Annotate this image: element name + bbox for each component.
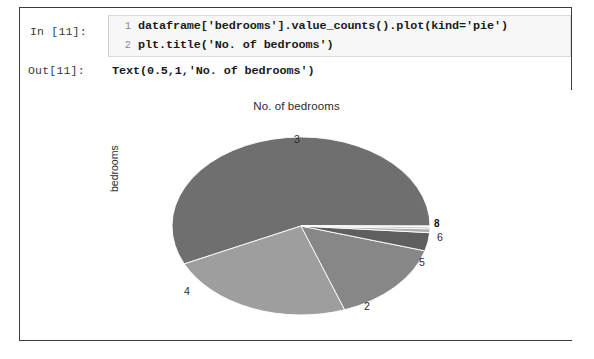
pie-label-8: 8 <box>434 218 440 229</box>
code-line-text: plt.title('No. of bedrooms') <box>138 36 333 55</box>
pie-chart <box>20 90 573 340</box>
notebook-cell-frame: In [11]: 1dataframe['bedrooms'].value_co… <box>19 7 572 341</box>
screenshot-root: In [11]: 1dataframe['bedrooms'].value_co… <box>0 0 594 359</box>
pie-wedge-7 <box>301 226 430 227</box>
pie-label-4: 4 <box>184 285 190 297</box>
output-prompt-label: Out[11]: <box>28 64 85 77</box>
line-number: 2 <box>109 36 131 55</box>
code-line-text: dataframe['bedrooms'].value_counts().plo… <box>138 17 508 36</box>
pie-label-6: 6 <box>437 231 443 243</box>
input-cell: In [11]: 1dataframe['bedrooms'].value_co… <box>20 15 573 57</box>
pie-label-2: 2 <box>364 300 370 312</box>
pie-label-5: 5 <box>419 256 425 268</box>
matplotlib-figure: No. of bedrooms bedrooms 342568 <box>20 90 573 340</box>
code-line[interactable]: 1dataframe['bedrooms'].value_counts().pl… <box>109 17 570 36</box>
code-editor[interactable]: 1dataframe['bedrooms'].value_counts().pl… <box>108 15 571 57</box>
input-prompt-label: In [11]: <box>30 25 108 38</box>
output-text: Text(0.5,1,'No. of bedrooms') <box>112 64 314 78</box>
code-line[interactable]: 2plt.title('No. of bedrooms') <box>109 36 570 55</box>
pie-wedges <box>172 137 430 315</box>
line-number: 1 <box>109 17 131 36</box>
pie-label-3: 3 <box>294 133 300 145</box>
output-row: Out[11]: Text(0.5,1,'No. of bedrooms') <box>20 64 573 84</box>
